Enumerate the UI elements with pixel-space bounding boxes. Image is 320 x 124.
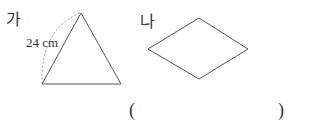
triangle-ga xyxy=(42,13,121,84)
answer-close-paren: ) xyxy=(278,100,284,121)
answer-open-paren: ( xyxy=(129,100,135,121)
answer-blank[interactable] xyxy=(140,100,270,120)
rhombus-na xyxy=(148,18,248,79)
